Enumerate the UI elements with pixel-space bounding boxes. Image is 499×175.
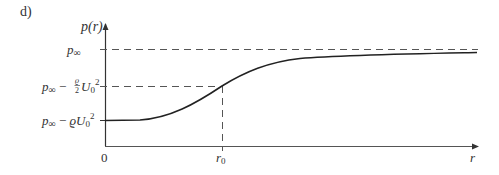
x-tick-r0: r0 <box>216 150 226 166</box>
y-tick-p-half: p∞ − ϱ 2 U02 <box>41 76 99 95</box>
svg-text:U02: U02 <box>81 77 99 95</box>
svg-text:p∞: p∞ <box>66 42 81 58</box>
svg-text:ϱ: ϱ <box>75 76 79 85</box>
svg-text:p∞ −: p∞ − <box>41 79 66 95</box>
y-tick-p-min: p∞ − ϱU02 <box>41 111 94 129</box>
y-tick-p-inf: p∞ <box>66 42 81 58</box>
x-tick-zero: 0 <box>101 150 108 165</box>
x-axis-label: r <box>470 150 476 165</box>
svg-text:2: 2 <box>75 86 79 95</box>
svg-text:r0: r0 <box>216 150 226 166</box>
panel-label: d) <box>20 4 32 20</box>
svg-text:p∞ − ϱU02: p∞ − ϱU02 <box>41 111 94 129</box>
y-axis-label: p(r) <box>80 19 103 35</box>
pressure-diagram: d) p(r) p∞ p∞ − ϱ 2 U02 p∞ − ϱU02 0 r0 r <box>0 0 499 175</box>
